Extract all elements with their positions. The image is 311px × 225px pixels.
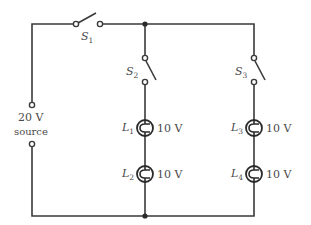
wire-top-rail <box>103 24 254 55</box>
switch-s3-label: S3 <box>235 65 248 80</box>
terminal <box>251 79 256 84</box>
switch-s1-arm <box>78 13 96 23</box>
switch-s2-arm <box>146 61 156 80</box>
lamp-l1-rating: 10 V <box>157 122 183 135</box>
source-voltage-label: 20 V <box>18 111 44 124</box>
lamp-l3 <box>246 120 262 136</box>
lamp-l3-label: L3 <box>230 121 243 136</box>
lamp-l4 <box>246 166 262 182</box>
switch-s3-arm <box>255 61 265 80</box>
switch-s3 <box>251 55 265 84</box>
lamp-l2-rating: 10 V <box>157 168 183 181</box>
switch-s1 <box>73 13 102 27</box>
lamp-l4-rating: 10 V <box>266 168 292 181</box>
lamp-l1-label: L1 <box>121 121 134 136</box>
terminal <box>73 21 78 26</box>
lamp-l2-label: L2 <box>121 167 134 182</box>
switch-s1-label: S1 <box>81 30 93 45</box>
source-terminal-top <box>29 102 34 107</box>
lamp-l2 <box>137 166 153 182</box>
lamp-l1 <box>137 120 153 136</box>
lamp-l3-rating: 10 V <box>266 122 292 135</box>
terminal <box>97 21 102 26</box>
junction-top <box>142 21 147 26</box>
lamp-l4-label: L4 <box>230 167 243 182</box>
source-name-label: source <box>14 126 48 137</box>
terminal <box>142 79 147 84</box>
source-terminal-bottom <box>29 141 34 146</box>
switch-s2 <box>142 55 156 84</box>
switch-s2-label: S2 <box>126 65 139 80</box>
circuit-diagram: 20 V source S1 S2 S3 L1 10 V L2 10 V L3 … <box>0 0 311 225</box>
terminal <box>142 55 147 60</box>
wire-source-to-s1 <box>32 24 73 102</box>
terminal <box>251 55 256 60</box>
junction-bottom <box>142 213 147 218</box>
